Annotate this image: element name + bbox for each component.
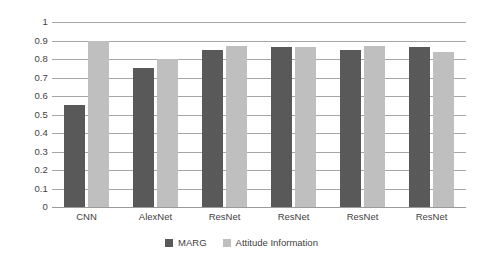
legend-swatch-icon (165, 239, 173, 247)
y-tick-label: 0.4 (4, 128, 48, 138)
bar-attitude (364, 46, 385, 207)
y-tick-label: 0.1 (4, 184, 48, 194)
bar-marg (202, 50, 223, 207)
bar-attitude (157, 59, 178, 207)
bar-attitude (88, 41, 109, 208)
bar-group (259, 22, 328, 207)
x-tick-label: AlexNet (121, 210, 190, 228)
bar-group (397, 22, 466, 207)
bar-attitude (433, 52, 454, 207)
x-tick-label: ResNet (328, 210, 397, 228)
y-tick-label: 0.5 (4, 110, 48, 120)
x-tick-label: ResNet (397, 210, 466, 228)
bar-chart: 1 0.9 0.8 0.7 0.6 0.5 0.4 0.3 0.2 0.1 0 (0, 0, 483, 258)
plot-area (52, 22, 466, 207)
y-tick-label: 0.3 (4, 147, 48, 157)
y-tick-label: 0.9 (4, 36, 48, 46)
bar-marg (340, 50, 361, 207)
bar-group (328, 22, 397, 207)
bar-marg (64, 105, 85, 207)
x-tick-label: CNN (52, 210, 121, 228)
legend-label: Attitude Information (236, 238, 318, 248)
y-tick-label: 0.2 (4, 165, 48, 175)
gridline-baseline (52, 207, 466, 208)
y-tick-label: 0 (4, 202, 48, 212)
legend-swatch-icon (223, 239, 231, 247)
bar-marg (409, 47, 430, 207)
bar-marg (133, 68, 154, 207)
bar-group (190, 22, 259, 207)
bar-attitude (226, 46, 247, 207)
x-tick-label: ResNet (259, 210, 328, 228)
bar-group (52, 22, 121, 207)
bar-groups (52, 22, 466, 207)
x-axis: CNN AlexNet ResNet ResNet ResNet ResNet (52, 210, 466, 228)
y-tick-label: 0.7 (4, 73, 48, 83)
y-tick-label: 0.8 (4, 54, 48, 64)
bar-group (121, 22, 190, 207)
x-tick-label: ResNet (190, 210, 259, 228)
y-tick-label: 1 (4, 17, 48, 27)
chart-legend: MARG Attitude Information (0, 234, 483, 252)
y-axis: 1 0.9 0.8 0.7 0.6 0.5 0.4 0.3 0.2 0.1 0 (0, 22, 48, 207)
bar-marg (271, 47, 292, 207)
y-tick-label: 0.6 (4, 91, 48, 101)
legend-item-marg: MARG (165, 238, 207, 248)
bar-attitude (295, 47, 316, 207)
legend-label: MARG (178, 238, 207, 248)
legend-item-attitude: Attitude Information (223, 238, 318, 248)
